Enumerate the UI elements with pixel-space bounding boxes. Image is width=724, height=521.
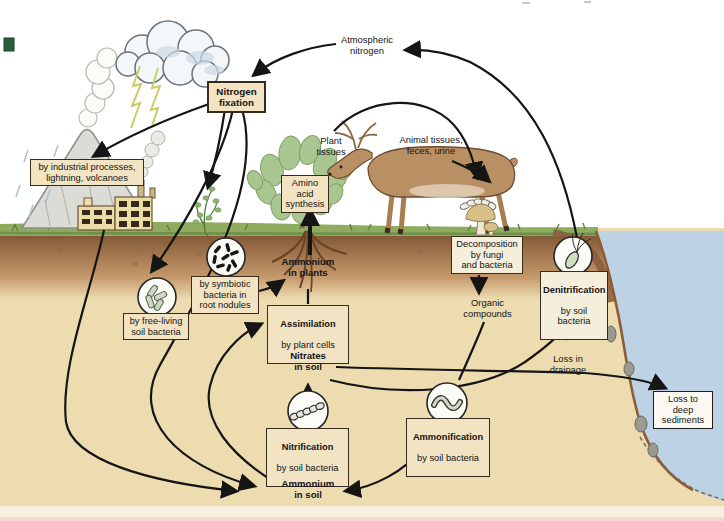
box-industrial-fixation: by industrial processes, lightning, volc… xyxy=(30,159,144,186)
box-loss-to-deep-sediments: Loss to deep sediments xyxy=(653,391,713,429)
diagram-canvas xyxy=(0,0,724,521)
box-free-living-bacteria: by free-living soil bacteria xyxy=(123,313,189,340)
label-loss-in-drainage: Loss in drainage xyxy=(543,354,593,376)
box-assimilation-title: Assimilation xyxy=(270,319,346,330)
box-assimilation-sub: by plant cells xyxy=(270,340,346,351)
label-plant-tissues: Plant tissues xyxy=(306,136,356,158)
box-denitrification: Denitrification by soil bacteria xyxy=(540,271,608,340)
box-amino-acid-synthesis: Amino acid synthesis xyxy=(281,175,329,213)
box-ammonification-sub: by soil bacteria xyxy=(409,453,487,464)
page-strip-edge xyxy=(0,517,724,521)
nitrogen-cycle-figure: Atmospheric nitrogen Nitrogen fixation b… xyxy=(0,0,724,521)
box-denitrification-sub: by soil bacteria xyxy=(543,306,605,327)
box-denitrification-title: Denitrification xyxy=(543,285,605,296)
box-ammonification: Ammonification by soil bacteria xyxy=(406,418,490,477)
ammonifying-bacteria-icon xyxy=(427,383,467,423)
box-nitrogen-fixation: Nitrogen fixation xyxy=(207,81,266,113)
green-corner-marker xyxy=(4,38,14,51)
label-nitrates-in-soil: Nitrates in soil xyxy=(282,351,334,372)
page-edge-marks xyxy=(522,1,591,4)
label-ammonium-in-soil: Ammonium in soil xyxy=(278,479,338,500)
arrow-fixation-to-legume xyxy=(208,109,225,187)
free-living-bacteria-icon xyxy=(138,278,176,316)
box-ammonification-title: Ammonification xyxy=(409,432,487,443)
root-nodule-bacteria-icon xyxy=(207,238,245,276)
box-decomposition: Decomposition by fungi and bacteria xyxy=(451,236,523,274)
box-symbiotic-bacteria: by symbiotic bacteria in root nodules xyxy=(191,276,259,314)
box-nitrification-title: Nitrification xyxy=(269,442,346,453)
nitrifying-bacteria-chain-icon xyxy=(288,391,328,431)
arrow-atmosphere-to-fixation xyxy=(254,44,336,75)
label-ammonium-in-plants: Ammonium in plants xyxy=(278,257,338,278)
volcano-smoke xyxy=(79,48,117,127)
label-atmospheric-nitrogen: Atmospheric nitrogen xyxy=(329,35,405,57)
label-animal-tissues: Animal tissues, feces, urine xyxy=(394,135,468,157)
label-organic-compounds: Organic compounds xyxy=(460,298,515,320)
box-nitrification-sub: by soil bacteria xyxy=(269,463,346,474)
